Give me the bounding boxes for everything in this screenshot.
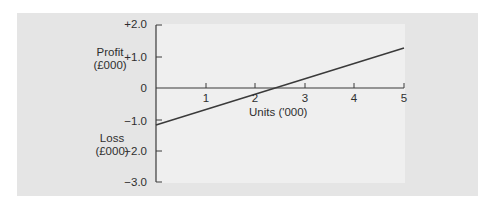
- y-tick-label: −1.0: [107, 115, 147, 128]
- x-tick-label: 5: [394, 92, 414, 105]
- loss-unit-label: (£000): [82, 145, 142, 158]
- loss-label: Loss: [82, 132, 142, 145]
- y-tick-label: −3.0: [107, 176, 147, 189]
- profit-label: Profit: [80, 46, 140, 59]
- profit-unit-label: (£000): [80, 59, 140, 72]
- x-tick-label: 4: [344, 92, 364, 105]
- y-tick-label: 0: [107, 82, 147, 95]
- y-tick-label: +2.0: [107, 18, 147, 31]
- x-tick-label: 2: [245, 92, 265, 105]
- x-tick-label: 1: [196, 92, 216, 105]
- x-tick-label: 3: [295, 92, 315, 105]
- x-axis-title: Units ('000): [249, 106, 307, 119]
